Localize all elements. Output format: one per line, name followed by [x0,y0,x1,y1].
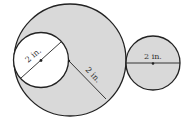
right-diameter-label: 2 in. [144,52,162,61]
circles-diagram: 2 in. 2 in. 2 in. [0,0,188,128]
right-center-dot [152,62,155,65]
large-center-dot [68,60,70,62]
inner-center-dot [40,59,43,62]
